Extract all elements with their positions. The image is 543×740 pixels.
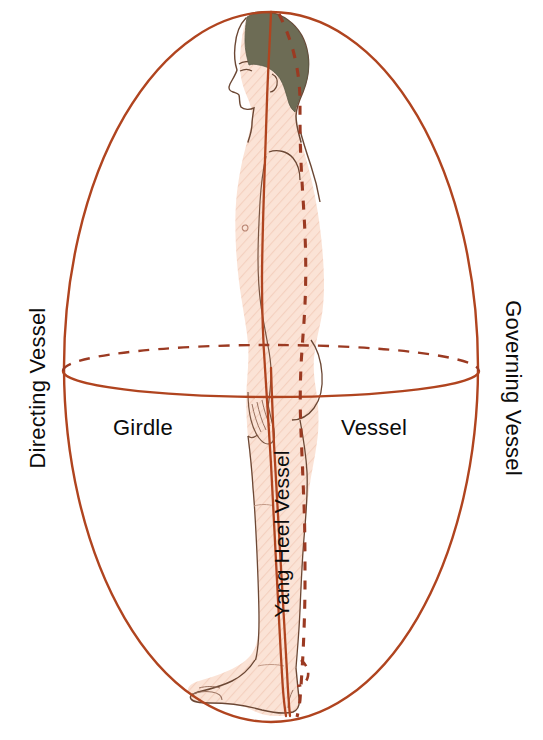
diagram-canvas: Directing Vessel Governing Vessel Girdle… [0, 0, 543, 740]
label-girdle-vessel: Vessel [341, 415, 407, 441]
human-figure [188, 12, 324, 716]
label-directing-vessel: Directing Vessel [25, 298, 51, 478]
label-governing-vessel: Governing Vessel [500, 293, 526, 483]
label-yang-heel-vessel: Yang Heel Vessel [270, 445, 294, 623]
body-silhouette [188, 12, 324, 716]
label-girdle: Girdle [113, 415, 173, 441]
vessel-diagram-svg [0, 0, 543, 740]
